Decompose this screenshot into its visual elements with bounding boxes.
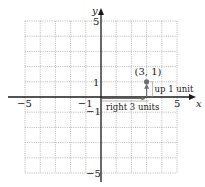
marks: [102, 79, 153, 101]
up-arrow-icon: [144, 84, 149, 89]
x-axis-label: x: [196, 98, 202, 109]
axes: [8, 8, 196, 182]
coordinate-plane: xy−5−1551−1−5(3, 1)up 1 unitright 3 unit…: [0, 0, 205, 187]
y-axis-label: y: [91, 5, 98, 16]
y-tick-label: −5: [86, 168, 101, 179]
up-move-bracket: [151, 82, 153, 97]
y-axis-arrow-icon: [98, 8, 104, 15]
x-tick-label: −5: [17, 98, 32, 109]
y-tick-label: 5: [93, 16, 99, 27]
data-point: [144, 79, 149, 84]
x-axis-arrow-icon: [189, 94, 196, 100]
right-move-label: right 3 units: [106, 102, 159, 112]
y-tick-label: 1: [93, 77, 99, 88]
labels: xy−5−1551−1−5(3, 1)up 1 unitright 3 unit…: [17, 5, 202, 179]
x-tick-label: 5: [174, 98, 180, 109]
y-tick-label: −1: [86, 106, 101, 117]
up-move-label: up 1 unit: [155, 84, 194, 94]
point-label: (3, 1): [135, 66, 162, 77]
